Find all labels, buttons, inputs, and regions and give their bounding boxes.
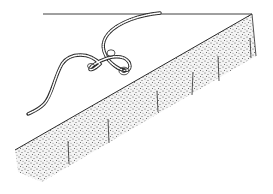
cord-on-slab-illustration bbox=[0, 0, 273, 194]
slab-front-face bbox=[15, 14, 256, 182]
slab-top-edge bbox=[15, 14, 252, 150]
